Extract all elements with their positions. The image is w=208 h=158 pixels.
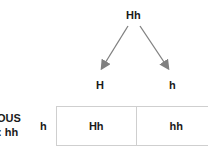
gamete-recessive: h bbox=[169, 79, 176, 91]
punnett-row: Hh hh bbox=[56, 106, 208, 146]
row-allele: h bbox=[40, 120, 47, 132]
punnett-cell: hh bbox=[137, 107, 208, 145]
left-label-line1: OUS bbox=[0, 112, 21, 124]
arrow-right-icon bbox=[140, 26, 168, 68]
punnett-cell: Hh bbox=[57, 107, 137, 145]
left-label-line2: : hh bbox=[0, 126, 18, 138]
arrow-left-icon bbox=[102, 26, 128, 68]
gamete-dominant: H bbox=[96, 79, 104, 91]
